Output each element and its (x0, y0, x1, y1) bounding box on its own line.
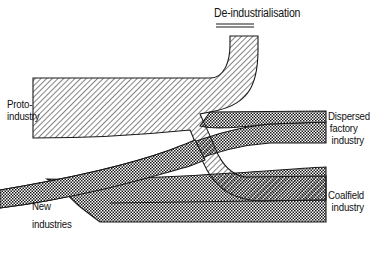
label-dispersed-line1: Dispersed (328, 110, 370, 122)
label-new-industries-line1: New (32, 200, 72, 212)
label-proto-industry-line2: industry (7, 110, 39, 122)
label-dispersed-line3: industry (328, 134, 370, 146)
label-new-industries-line2: industries (32, 218, 72, 230)
label-proto-industry: Proto- industry (7, 98, 39, 122)
label-proto-industry-line1: Proto- (7, 98, 39, 110)
label-coalfield-line1: Coalfield (328, 189, 364, 201)
label-dispersed-factory-industry: Dispersed factory industry (328, 110, 370, 146)
label-new-industries: New industries (32, 200, 72, 230)
label-coalfield-industry: Coalfield industry (328, 189, 364, 213)
label-coalfield-line2: industry (328, 201, 364, 213)
title-de-industrialisation: De-industrialisation (214, 7, 300, 19)
label-dispersed-line2: factory (328, 122, 370, 134)
